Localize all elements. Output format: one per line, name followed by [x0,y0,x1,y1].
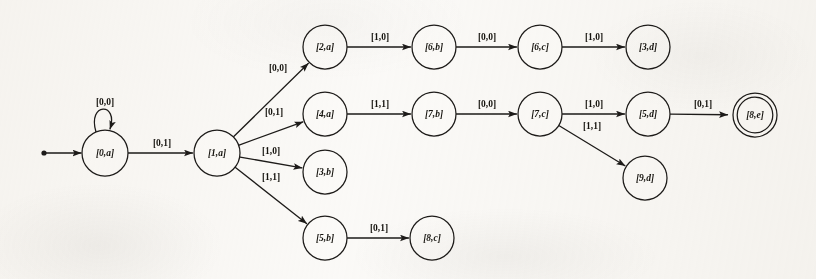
state-label-5b: [5,b] [316,233,334,243]
state-node-7c[interactable]: [7,c] [518,92,562,136]
edge-label-7b-to-7c: [0,0] [478,99,496,109]
node-layer: [0,a][1,a][2,a][4,a][3,b][5,b][6,b][7,b]… [82,25,777,260]
state-label-9d: [9,d] [636,173,654,183]
state-node-9d[interactable]: [9,d] [623,156,667,200]
edge-label-0a-to-0a: [0,0] [96,97,114,107]
fsm-graph-canvas: [0,a][1,a][2,a][4,a][3,b][5,b][6,b][7,b]… [0,0,816,279]
state-label-3b: [3,b] [316,167,334,177]
fsm-diagram-page: [0,a][1,a][2,a][4,a][3,b][5,b][6,b][7,b]… [0,0,816,279]
state-node-1a[interactable]: [1,a] [194,130,240,176]
edge-label-5d-to-8e: [0,1] [694,99,712,109]
edge-label-6b-to-6c: [0,0] [478,32,496,42]
edge-label-6c-to-3d: [1,0] [585,32,603,42]
state-label-8e: [8,e] [746,110,764,120]
state-label-8c: [8,c] [423,233,441,243]
state-node-7b[interactable]: [7,b] [412,92,456,136]
state-label-3d: [3,d] [639,42,657,52]
edge-5d-to-8e [670,114,727,115]
state-node-6c[interactable]: [6,c] [518,25,562,69]
edge-label-1a-to-2a: [0,0] [269,63,287,73]
state-label-2a: [2,a] [316,42,334,52]
state-label-0a: [0,a] [96,148,114,158]
state-node-4a[interactable]: [4,a] [303,92,347,136]
edge-label-1a-to-5b: [1,1] [262,172,280,182]
state-node-0a[interactable]: [0,a] [82,130,128,176]
start-arrow [41,150,81,155]
state-label-6c: [6,c] [531,42,549,52]
state-node-5b[interactable]: [5,b] [303,216,347,260]
state-label-6b: [6,b] [425,42,443,52]
edge-label-1a-to-4a: [0,1] [265,107,283,117]
state-label-4a: [4,a] [316,109,334,119]
edge-label-2a-to-6b: [1,0] [371,32,389,42]
edge-1a-to-4a [239,122,303,145]
state-node-6b[interactable]: [6,b] [412,25,456,69]
edge-1a-to-2a [234,63,308,136]
state-label-7c: [7,c] [531,109,549,119]
edge-label-layer: [0,0][0,1][0,0][0,1][1,0][1,1][1,0][0,0]… [96,32,712,233]
edge-label-5b-to-8c: [0,1] [370,223,388,233]
edge-label-0a-to-1a: [0,1] [153,138,171,148]
edge-7c-to-9d [559,126,625,166]
edge-label-4a-to-7b: [1,1] [371,99,389,109]
edge-label-1a-to-3b: [1,0] [262,146,280,156]
state-label-1a: [1,a] [208,148,226,158]
state-label-7b: [7,b] [425,109,443,119]
state-node-5d[interactable]: [5,d] [626,92,670,136]
state-label-5d: [5,d] [639,109,657,119]
edge-0a-to-0a [94,109,111,132]
state-node-8e[interactable]: [8,e] [733,93,777,137]
edge-label-7c-to-9d: [1,1] [583,121,601,131]
state-node-3d[interactable]: [3,d] [626,25,670,69]
state-node-2a[interactable]: [2,a] [303,25,347,69]
edge-label-7c-to-5d: [1,0] [585,99,603,109]
state-node-8c[interactable]: [8,c] [410,216,454,260]
state-node-3b[interactable]: [3,b] [303,150,347,194]
edge-1a-to-3b [240,157,302,168]
edge-layer [41,47,727,238]
